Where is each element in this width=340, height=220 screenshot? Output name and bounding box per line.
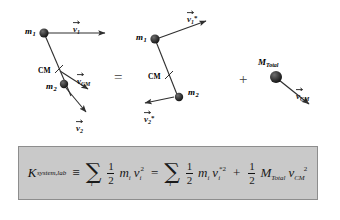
total-mass-dot <box>270 71 282 83</box>
mass-1-dot <box>150 34 159 43</box>
sigma-index: i <box>91 180 93 188</box>
one-half-fraction-2: 1 2 <box>184 161 195 186</box>
v1-star-vector-label: v1* <box>187 8 198 26</box>
mass-2-label: m2 <box>188 88 199 99</box>
mass-2-dot <box>60 80 68 88</box>
v2-star-vector-label: v2* <box>144 108 155 126</box>
kinetic-energy-equation: Ksystem,lab ≡ ∑ i 1 2 mi vi2 = ∑ i <box>19 147 317 199</box>
mass-1-label: m1 <box>136 33 147 44</box>
cm-tick <box>165 71 173 79</box>
vcm-vector-label: vCM <box>296 85 309 103</box>
total-mass-label: MTotal <box>258 58 278 68</box>
physics-figure: = + m1 m2 CM v1 vCM <box>0 0 340 220</box>
mass-connector-line <box>155 39 178 97</box>
sigma-glyph: ∑ <box>164 159 180 184</box>
one-half-fraction-3: 1 2 <box>246 161 257 186</box>
velocity-term-3: vCM2 <box>288 165 308 181</box>
mass-2-dot <box>175 93 183 101</box>
equals-operator: = <box>114 70 122 85</box>
mass-term-1: mi <box>119 165 130 182</box>
mass-1-dot <box>39 28 48 37</box>
velocity-term-1: vi2 <box>134 165 145 181</box>
identity-sign: ≡ <box>69 165 82 181</box>
diagram-vector-graphics <box>0 0 340 136</box>
mass-term-2: mi <box>198 165 209 182</box>
v1-vector-label: v1 <box>73 18 80 36</box>
equation-lhs: Ksystem,lab <box>28 165 67 181</box>
equation-panel: Ksystem,lab ≡ ∑ i 1 2 mi vi2 = ∑ i <box>18 146 318 200</box>
equals-sign: = <box>148 165 161 181</box>
sigma-index: i <box>169 180 171 188</box>
v2-star-arrow <box>145 97 174 103</box>
v2-vector-label: v2 <box>76 117 83 135</box>
vcm-vector-label: vCM <box>77 70 90 88</box>
star-and-power: *2 <box>219 165 226 173</box>
plus-sign: + <box>230 165 243 181</box>
sigma-glyph: ∑ <box>86 159 102 184</box>
summation-2: ∑ i <box>164 163 181 183</box>
cm-label: CM <box>38 67 51 75</box>
cm-label: CM <box>148 73 161 81</box>
total-mass-term: MTotal <box>260 165 285 182</box>
velocity-term-2: vi*2 <box>212 165 227 181</box>
v1-star-arrow <box>159 21 206 38</box>
summation-1: ∑ i <box>86 163 103 183</box>
one-half-fraction-1: 1 2 <box>105 161 116 186</box>
v2-arrow <box>66 88 86 112</box>
mass-2-label: m2 <box>46 82 57 93</box>
diagram-area: = + m1 m2 CM v1 vCM <box>0 0 340 136</box>
plus-operator: + <box>239 72 247 87</box>
mass-1-label: m1 <box>25 27 36 38</box>
